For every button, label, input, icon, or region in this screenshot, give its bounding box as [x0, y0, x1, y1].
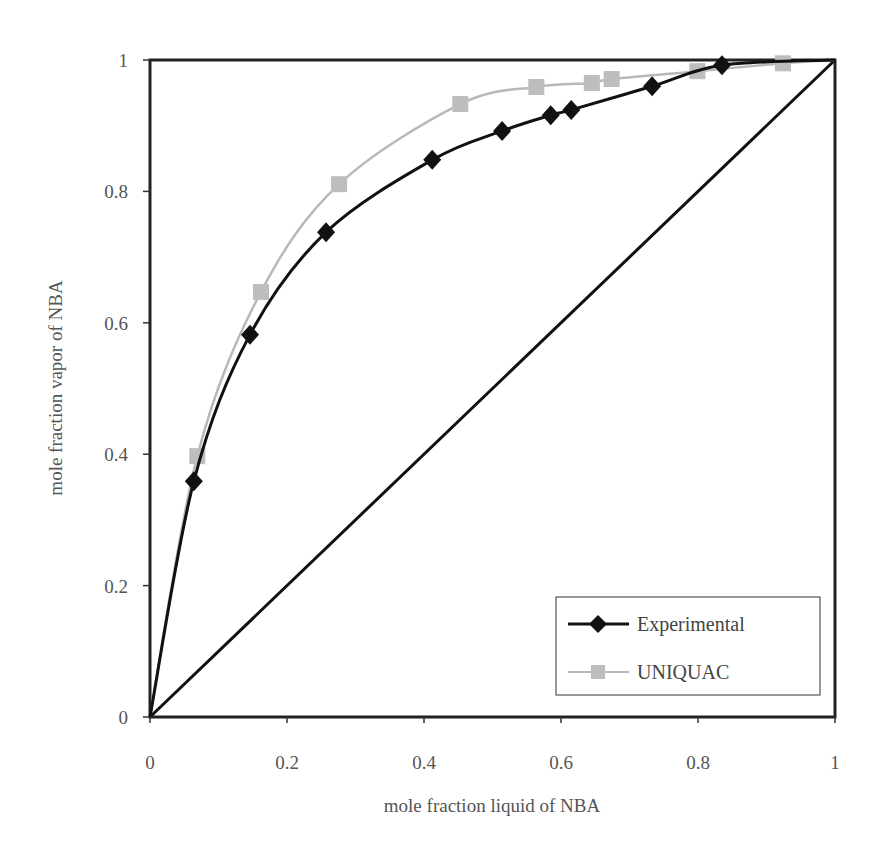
y-tick-label: 0.4 [104, 444, 128, 465]
diamond-marker-icon [643, 76, 661, 96]
vle-chart: 00.20.40.60.8100.20.40.60.81 mole fracti… [0, 0, 887, 863]
square-marker-icon [331, 176, 347, 192]
diamond-marker-icon [493, 121, 511, 141]
diamond-marker-icon [185, 471, 203, 491]
square-marker-icon [591, 665, 605, 679]
square-marker-icon [452, 96, 468, 112]
diamond-marker-icon [423, 150, 441, 170]
x-axis-title: mole fraction liquid of NBA [384, 795, 601, 816]
x-tick-label: 0.8 [686, 752, 710, 773]
x-tick-label: 0.6 [549, 752, 573, 773]
y-tick-label: 0 [119, 707, 129, 728]
x-tick-label: 0.2 [275, 752, 299, 773]
y-tick-label: 0.6 [104, 313, 128, 334]
y-tick-label: 0.2 [104, 576, 128, 597]
square-marker-icon [253, 284, 269, 300]
legend-label-uniquac: UNIQUAC [637, 661, 729, 683]
diamond-marker-icon [713, 55, 731, 75]
chart-canvas: 00.20.40.60.8100.20.40.60.81 mole fracti… [0, 0, 887, 863]
y-axis-title: mole fraction vapor of NBA [45, 280, 66, 496]
square-marker-icon [604, 71, 620, 87]
y-tick-label: 0.8 [104, 181, 128, 202]
x-tick-label: 0.4 [412, 752, 436, 773]
diamond-marker-icon [542, 105, 560, 125]
y-tick-label: 1 [119, 50, 129, 71]
x-tick-label: 0 [145, 752, 155, 773]
diamond-marker-icon [562, 100, 580, 120]
x-tick-label: 1 [830, 752, 840, 773]
legend: Experimental UNIQUAC [556, 597, 820, 695]
square-marker-icon [528, 79, 544, 95]
square-marker-icon [775, 55, 791, 71]
legend-label-experimental: Experimental [637, 613, 745, 636]
square-marker-icon [584, 75, 600, 91]
